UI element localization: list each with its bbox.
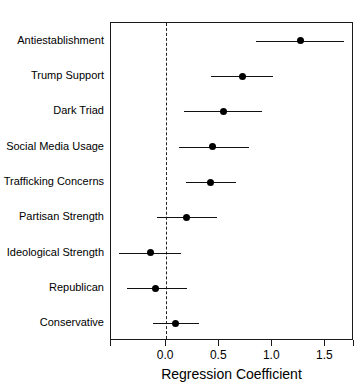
estimate-point bbox=[207, 179, 214, 186]
zero-reference-line bbox=[166, 23, 167, 339]
y-axis-label: Social Media Usage bbox=[6, 140, 104, 152]
y-axis-label: Trump Support bbox=[31, 69, 104, 81]
y-axis-label: Dark Triad bbox=[53, 104, 104, 116]
estimate-point bbox=[147, 249, 154, 256]
y-axis-label: Trafficking Concerns bbox=[4, 175, 104, 187]
x-axis-tick-label: 0.5 bbox=[210, 348, 227, 362]
forest-plot-figure: AntiestablishmentTrump SupportDark Triad… bbox=[0, 0, 363, 389]
estimate-point bbox=[209, 143, 216, 150]
plot-area bbox=[110, 22, 353, 340]
estimate-point bbox=[297, 37, 304, 44]
chart-title bbox=[0, 0, 363, 2]
x-axis-tick bbox=[271, 340, 272, 346]
y-axis-label: Antiestablishment bbox=[17, 34, 104, 46]
estimate-point bbox=[220, 108, 227, 115]
estimate-point bbox=[152, 285, 159, 292]
estimate-point bbox=[239, 73, 246, 80]
y-axis-label: Ideological Strength bbox=[7, 246, 104, 258]
x-axis-tick-label: 1.0 bbox=[263, 348, 280, 362]
y-axis-label: Republican bbox=[49, 281, 104, 293]
y-axis-category-labels: AntiestablishmentTrump SupportDark Triad… bbox=[0, 22, 104, 340]
y-axis-label: Partisan Strength bbox=[19, 210, 104, 222]
estimate-point bbox=[183, 214, 190, 221]
x-axis-tick bbox=[218, 340, 219, 346]
x-axis-tick-label: 0.0 bbox=[157, 348, 174, 362]
estimate-point bbox=[172, 320, 179, 327]
x-axis-tick bbox=[165, 340, 166, 346]
x-axis-tick bbox=[324, 340, 325, 346]
x-axis-tick-label: 1.5 bbox=[316, 348, 333, 362]
x-axis-end-tick bbox=[353, 340, 354, 346]
x-axis-end-tick bbox=[110, 340, 111, 346]
x-axis-title: Regression Coefficient bbox=[110, 366, 353, 382]
y-axis-label: Conservative bbox=[40, 316, 104, 328]
